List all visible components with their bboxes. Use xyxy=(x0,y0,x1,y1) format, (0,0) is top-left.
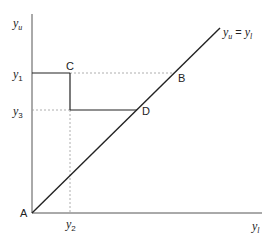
tick-label-y2: y2 xyxy=(65,217,76,233)
tick-label-y3: y3 xyxy=(12,104,23,120)
diagonal-line xyxy=(32,28,220,213)
point-label-c: C xyxy=(66,60,74,72)
point-label-b: B xyxy=(178,72,185,84)
tick-label-y1: y1 xyxy=(12,67,23,83)
diagram-canvas: yu yl yu=yl y1 y3 y2 A B C D xyxy=(0,0,275,239)
point-label-d: D xyxy=(142,105,150,117)
point-label-a: A xyxy=(20,207,28,219)
x-axis-label: yl xyxy=(251,219,260,235)
diagonal-label: yu=yl xyxy=(222,25,253,41)
y-axis-label: yu xyxy=(12,16,22,32)
